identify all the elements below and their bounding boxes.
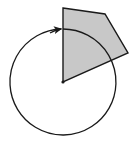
diagram-canvas [0, 0, 138, 147]
rotation-center-point [61, 80, 64, 83]
shaded-quadrilateral [63, 8, 128, 82]
rotation-diagram [0, 0, 138, 147]
